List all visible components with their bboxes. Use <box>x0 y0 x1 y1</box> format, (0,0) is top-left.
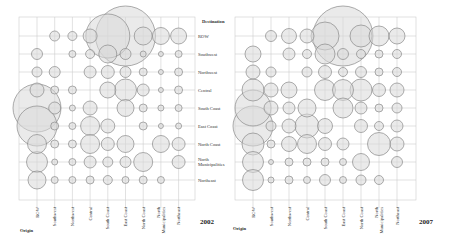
flow-bubble <box>103 176 112 185</box>
flow-bubble <box>375 104 383 112</box>
origin-column-label: North Coast <box>141 207 146 241</box>
flow-bubble <box>303 158 311 166</box>
flow-bubble <box>267 140 275 148</box>
flow-bubble <box>390 137 404 151</box>
flow-bubble <box>393 50 402 59</box>
flow-bubble <box>338 49 349 60</box>
flow-bubble <box>375 68 383 76</box>
flow-bubble <box>298 135 317 154</box>
flow-bubble <box>101 119 115 133</box>
flow-bubble <box>172 156 185 169</box>
flow-bubble <box>158 105 164 111</box>
flow-bubble <box>269 160 274 165</box>
origin-column-label: Central <box>305 207 310 241</box>
flow-bubble <box>300 29 314 43</box>
origin-column-label: Southwest <box>52 207 57 241</box>
flow-bubble <box>353 154 370 171</box>
origin-column-label: Central <box>88 207 93 241</box>
flow-bubble <box>171 28 187 44</box>
flow-bubble <box>81 135 100 154</box>
flow-bubble <box>246 65 260 79</box>
flow-bubble <box>319 138 332 151</box>
origin-axis-title-2007: Origin <box>233 226 246 231</box>
flow-bubble <box>337 138 349 150</box>
flow-bubble <box>266 31 277 42</box>
flow-bubble <box>120 157 131 168</box>
flow-bubble <box>120 49 131 60</box>
flow-bubble <box>390 83 404 97</box>
flow-bubble <box>303 50 312 59</box>
flow-bubble <box>117 136 134 153</box>
bubble-matrix-2002 <box>0 0 226 245</box>
origin-column-label: Northwest <box>287 207 292 241</box>
flow-bubble <box>282 29 297 44</box>
flow-bubble <box>83 101 97 115</box>
flow-bubble <box>139 68 147 76</box>
flow-bubble <box>134 27 152 45</box>
origin-column-label: NorthMunicipalities <box>374 207 384 241</box>
flow-bubble <box>282 119 296 133</box>
flow-bubble <box>52 159 58 165</box>
flow-bubble <box>389 28 405 44</box>
flow-bubble <box>243 170 264 191</box>
origin-column-label: North Coast <box>359 207 364 241</box>
flow-bubble <box>391 120 403 132</box>
flow-bubble <box>122 177 129 184</box>
flow-bubble <box>27 152 48 173</box>
flow-bubble <box>393 68 402 77</box>
flow-bubble <box>318 119 333 134</box>
flow-bubble <box>268 177 274 183</box>
flow-bubble <box>115 79 137 101</box>
flow-bubble <box>101 66 114 79</box>
flow-bubble <box>51 122 59 130</box>
flow-bubble <box>69 123 76 130</box>
flow-bubble <box>264 83 278 97</box>
destination-row-label: South Coast <box>198 106 220 111</box>
flow-bubble <box>340 177 347 184</box>
flow-bubble <box>320 175 331 186</box>
flow-bubble <box>81 117 100 136</box>
flow-bubble <box>298 99 316 117</box>
origin-column-label: South Coast <box>323 207 328 241</box>
origin-column-label: NorthMunicipalities <box>156 207 166 241</box>
flow-bubble <box>285 176 293 184</box>
origin-column-label: Southwest <box>269 207 274 241</box>
flow-bubble <box>321 158 329 166</box>
flow-bubble <box>357 50 366 59</box>
flow-bubble <box>28 171 46 189</box>
flow-bubble <box>373 84 386 97</box>
flow-bubble <box>285 158 293 166</box>
flow-bubble <box>392 157 403 168</box>
flow-bubble <box>339 68 348 77</box>
origin-column-label: ROW <box>35 207 40 241</box>
flow-bubble <box>28 135 47 154</box>
destination-row-label: North Coast <box>198 142 220 147</box>
flow-bubble <box>392 103 402 113</box>
flow-bubble <box>368 133 391 156</box>
flow-bubble <box>32 49 43 60</box>
origin-column-label: South Coast <box>105 207 110 241</box>
flow-bubble <box>175 86 183 94</box>
flow-bubble <box>245 46 261 62</box>
destination-axis-title: Destination <box>202 19 224 24</box>
flow-bubble <box>51 86 59 94</box>
flow-bubble <box>68 86 76 94</box>
flow-bubble <box>120 67 131 78</box>
destination-row-label: ROW <box>198 34 209 39</box>
flow-bubble <box>158 88 163 93</box>
flow-bubble <box>355 102 367 114</box>
flow-bubble <box>158 52 163 57</box>
flow-bubble <box>152 136 169 153</box>
flow-bubble <box>51 140 59 148</box>
flow-bubble <box>157 177 164 184</box>
origin-column-label: Northeast <box>176 207 181 241</box>
flow-bubble <box>175 105 182 112</box>
flow-bubble <box>175 51 182 58</box>
flow-bubble <box>84 66 96 78</box>
flow-bubble <box>242 79 264 101</box>
flow-bubble <box>83 29 97 43</box>
flow-bubble <box>69 105 75 111</box>
destination-row-label: NorthMunicipalities <box>198 157 225 167</box>
origin-axis-title-2002: Origin <box>20 228 33 233</box>
flow-bubble <box>266 121 276 131</box>
